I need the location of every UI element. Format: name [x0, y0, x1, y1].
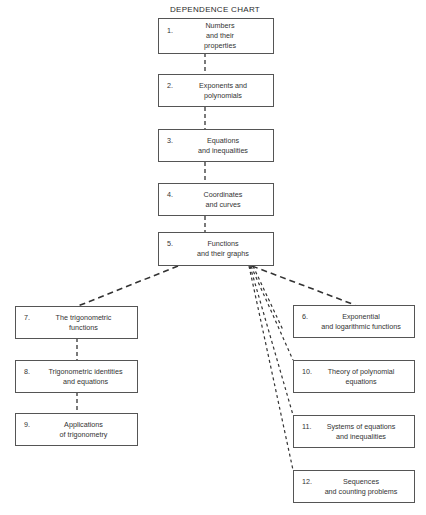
node-10: 10. Theory of polynomialequations: [293, 360, 415, 393]
node-2: 2. Exponents andpolynomials: [158, 74, 274, 107]
node-6: 6. Exponentialand logarithmic functions: [293, 305, 415, 338]
edge-5-12: [249, 266, 293, 470]
node-11: 11. Systems of equationsand inequalities: [293, 415, 415, 448]
edge-5-10: [251, 266, 293, 360]
edge-5-7: [78, 266, 178, 306]
node-4: 4. Coordinatesand curves: [158, 183, 274, 216]
node-5: 5. Functionsand their graphs: [158, 232, 274, 266]
edge-5-11: [250, 266, 293, 415]
edge-5-6: [252, 266, 355, 305]
node-3: 3. Equationsand inequalities: [158, 129, 274, 162]
node-7: 7. The trigonometricfunctions: [15, 306, 138, 339]
node-8: 8. Trigonometric identitiesand equations: [15, 360, 138, 393]
node-12: 12. Sequencesand counting problems: [293, 470, 415, 503]
node-1: 1. Numbersand theirproperties: [158, 18, 274, 54]
node-9: 9. Applicationsof trigonometry: [15, 413, 138, 446]
edge-5-10b: [253, 266, 283, 330]
